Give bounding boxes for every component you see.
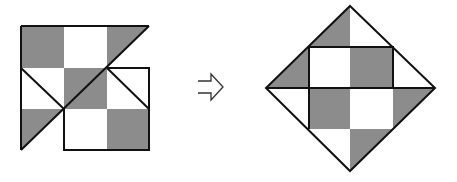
right-gray-inner-bottom-left	[309, 88, 350, 129]
right-shape	[266, 6, 435, 171]
left-gray-top-left	[21, 26, 64, 68]
left-shape	[21, 26, 149, 150]
outline-right-arrow-icon	[198, 74, 223, 100]
puzzle-diagram	[0, 0, 457, 182]
left-gray-bottom-right	[107, 109, 149, 150]
right-gray-inner-top-right	[350, 47, 393, 88]
